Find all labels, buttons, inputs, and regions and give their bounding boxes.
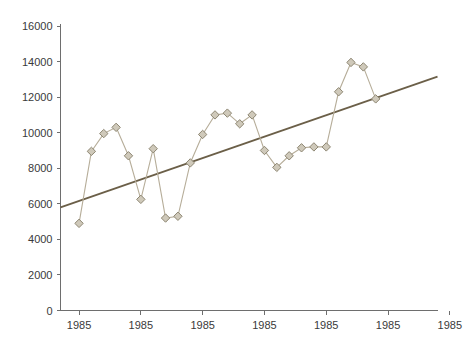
data-point-marker <box>112 123 120 131</box>
data-point-marker <box>137 195 145 203</box>
y-tick-label: 12000 <box>22 91 53 103</box>
y-axis: 0200040006000800010000120001400016000 <box>22 20 61 317</box>
data-point-markers <box>75 58 380 227</box>
y-tick-label: 0 <box>46 305 52 317</box>
data-point-marker <box>371 95 379 103</box>
y-tick-label: 16000 <box>22 20 53 32</box>
x-axis: 1985198519851985198519851985 <box>61 311 463 331</box>
data-point-marker <box>100 129 108 137</box>
data-point-marker <box>211 111 219 119</box>
chart-canvas: 0200040006000800010000120001400016000 19… <box>0 0 473 350</box>
x-tick-label: 1985 <box>129 319 153 331</box>
x-tick-label: 1985 <box>376 319 400 331</box>
y-tick-label: 14000 <box>22 56 53 68</box>
y-tick-label: 2000 <box>28 269 52 281</box>
data-point-marker <box>75 219 83 227</box>
data-point-marker <box>161 214 169 222</box>
data-point-marker <box>359 63 367 71</box>
y-tick-label: 10000 <box>22 127 53 139</box>
data-point-marker <box>149 144 157 152</box>
x-tick-label: 1985 <box>67 319 91 331</box>
line-chart: 0200040006000800010000120001400016000 19… <box>0 0 473 350</box>
x-tick-label: 1985 <box>252 319 276 331</box>
data-point-marker <box>198 130 206 138</box>
y-tick-label: 4000 <box>28 233 52 245</box>
data-point-marker <box>87 147 95 155</box>
y-tick-label: 8000 <box>28 162 52 174</box>
data-point-marker <box>248 111 256 119</box>
data-series-line <box>79 62 376 223</box>
data-point-marker <box>334 88 342 96</box>
y-tick-label: 6000 <box>28 198 52 210</box>
data-point-marker <box>124 152 132 160</box>
data-point-marker <box>310 143 318 151</box>
data-point-marker <box>297 144 305 152</box>
x-tick-label: 1985 <box>190 319 214 331</box>
x-tick-label: 1985 <box>314 319 338 331</box>
x-tick-label: 1985 <box>438 319 462 331</box>
data-point-marker <box>322 143 330 151</box>
data-point-marker <box>174 212 182 220</box>
data-point-marker <box>186 159 194 167</box>
data-point-marker <box>347 58 355 66</box>
trend-line <box>61 77 438 208</box>
data-point-marker <box>260 146 268 154</box>
